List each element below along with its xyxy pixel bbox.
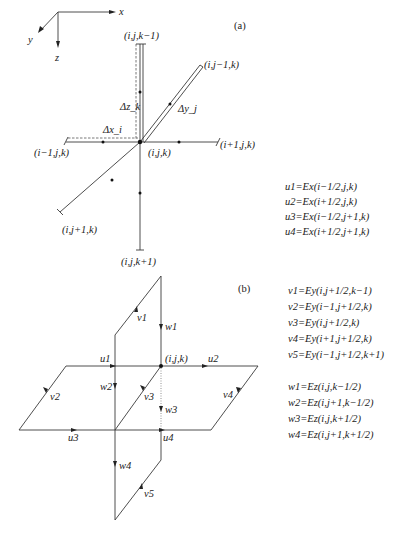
- u-equation-3: u3=Ex(i−1/2,j+1,k): [285, 211, 370, 223]
- w-equation-1: w1=Ez(i,j,k−1/2): [288, 381, 362, 393]
- delta-y-label: Δy_j: [177, 103, 197, 114]
- panel-a: x y z (a) (i,j,k−1) (i,j−1,k) (: [27, 6, 370, 268]
- w-equation-2: w2=Ez(i,j+1,k−1/2): [288, 397, 374, 409]
- delta-x-label: Δx_i: [102, 124, 122, 135]
- panel-a-label: (a): [234, 20, 246, 32]
- node-lower-left-label: (i,j+1,k): [62, 224, 98, 236]
- center-node-label-b: (i,j,k): [165, 353, 188, 365]
- x-axis-label: x: [118, 6, 124, 17]
- v-equation-1: v1=Ey(i,j+1/2,k−1): [288, 285, 372, 297]
- edge-w1-label: w1: [165, 321, 177, 332]
- lower-plane: [115, 430, 161, 520]
- v-equation-4: v4=Ey(i+1,j+1/2,k): [288, 333, 372, 345]
- node-upper-right-label: (i,j−1,k): [204, 59, 240, 71]
- yee-cell-diagram: x y z (a) (i,j,k−1) (i,j−1,k) (: [0, 0, 396, 539]
- u-equation-1: u1=Ex(i−1/2,j,k): [285, 181, 357, 193]
- edge-v2-label: v2: [50, 391, 61, 402]
- node-top-label: (i,j,k−1): [124, 30, 160, 42]
- edge-u3-label: u3: [68, 432, 79, 443]
- node-bottom-label: (i,j,k+1): [121, 256, 157, 268]
- panel-b: (b) (i,j,k) u1 u2 u3 u4 v1 v2 v3 v4: [19, 276, 384, 520]
- w-equation-3: w3=Ez(i,j,k+1/2): [288, 413, 362, 425]
- z-arrow-icon: [56, 41, 60, 48]
- edge-w3-label: w3: [165, 404, 177, 415]
- edge-u4-label: u4: [163, 432, 174, 443]
- v-equation-2: v2=Ey(i−1,j+1/2,k): [288, 301, 372, 313]
- z-axis-label: z: [54, 52, 59, 63]
- u-equation-4: u4=Ex(i+1/2,j+1,k): [285, 226, 370, 238]
- w-equation-4: w4=Ez(i,j+1,k+1/2): [288, 429, 374, 441]
- edge-v4-label: v4: [223, 389, 234, 400]
- node-left-label: (i−1,j,k): [34, 147, 70, 159]
- edge-w4-label: w4: [119, 460, 132, 471]
- u-equation-2: u2=Ex(i+1/2,j,k): [285, 196, 357, 208]
- y-axis-label: y: [27, 34, 33, 45]
- edge-v1-label: v1: [137, 312, 147, 323]
- y-arrow-icon: [38, 26, 44, 33]
- node-right-label: (i+1,j,k): [220, 139, 256, 151]
- v-equation-3: v3=Ey(i,j+1/2,k): [288, 317, 360, 329]
- node-center-label: (i,j,k): [148, 147, 171, 159]
- x-arrow-icon: [109, 10, 116, 14]
- y-grid-line: [60, 142, 140, 212]
- edge-u2-label: u2: [208, 353, 219, 364]
- edge-u1-label: u1: [100, 353, 111, 364]
- edge-v3-label: v3: [144, 391, 154, 402]
- v-equation-5: v5=Ey(i−1,j+1/2,k+1): [288, 349, 384, 361]
- delta-z-label: Δz_k: [119, 101, 140, 112]
- edge-v5-label: v5: [144, 488, 154, 499]
- center-node-dot-b: [159, 364, 163, 368]
- panel-b-label: (b): [238, 283, 251, 295]
- edge-w2-label: w2: [100, 381, 113, 392]
- axes-triad: x y z: [27, 6, 124, 63]
- center-node-dot: [138, 140, 142, 144]
